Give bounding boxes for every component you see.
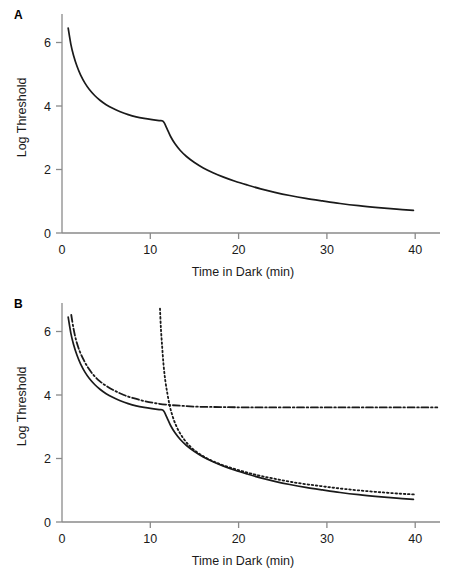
y-tick-label: 6 xyxy=(44,325,51,339)
y-tick-label: 0 xyxy=(44,227,51,241)
x-axis-title: Time in Dark (min) xyxy=(192,554,294,568)
x-tick-label: 20 xyxy=(232,532,246,546)
data-series-dotted xyxy=(160,309,414,495)
x-tick-label: 30 xyxy=(320,243,334,257)
y-axis-title: Log Threshold xyxy=(15,78,29,158)
x-tick-label: 40 xyxy=(408,532,422,546)
x-tick-label: 10 xyxy=(143,243,157,257)
x-tick-label: 0 xyxy=(59,532,66,546)
y-tick-label: 6 xyxy=(44,36,51,50)
panel-a: A 0246010203040Time in Dark (min)Log Thr… xyxy=(0,0,462,288)
x-tick-label: 30 xyxy=(320,532,334,546)
x-tick-label: 40 xyxy=(408,243,422,257)
data-series-solid xyxy=(68,28,413,210)
x-tick-label: 0 xyxy=(59,243,66,257)
x-axis-title: Time in Dark (min) xyxy=(192,265,294,279)
y-tick-label: 2 xyxy=(44,163,51,177)
y-tick-label: 2 xyxy=(44,452,51,466)
data-series-dashdot xyxy=(71,315,437,407)
panel-b: B 0246010203040Time in Dark (min)Log Thr… xyxy=(0,289,462,577)
data-series-solid xyxy=(68,317,413,499)
y-tick-label: 0 xyxy=(44,516,51,530)
y-tick-label: 4 xyxy=(44,389,51,403)
panel-b-plot: 0246010203040Time in Dark (min)Log Thres… xyxy=(0,289,462,577)
x-tick-label: 20 xyxy=(232,243,246,257)
y-axis-title: Log Threshold xyxy=(15,367,29,447)
panel-a-plot: 0246010203040Time in Dark (min)Log Thres… xyxy=(0,0,462,288)
x-tick-label: 10 xyxy=(143,532,157,546)
y-tick-label: 4 xyxy=(44,100,51,114)
dark-adaptation-figure: A 0246010203040Time in Dark (min)Log Thr… xyxy=(0,0,462,577)
